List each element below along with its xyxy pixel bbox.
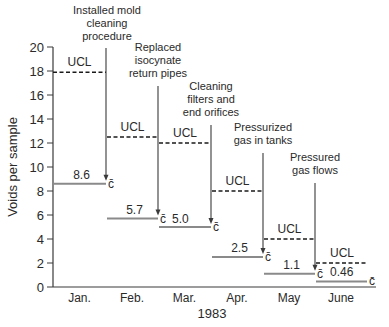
annotation-text: Pressured [290, 151, 340, 163]
annotation-text: Pressurized [234, 121, 292, 133]
x-tick-label: June [328, 291, 354, 305]
annotation: Installed moldcleaningprocedure [73, 4, 141, 181]
x-tick-label: Feb. [120, 291, 144, 305]
x-tick-label: Jan. [68, 291, 91, 305]
annotation-text: end orifices [183, 106, 240, 118]
ucl-label: UCL [277, 222, 301, 236]
x-axis-label: 1983 [198, 306, 227, 321]
cbar-value-label: 0.46 [330, 265, 354, 279]
y-axis-label: Voids per sample [5, 117, 20, 217]
annotation-text: cleaning [87, 17, 128, 29]
annotation-text: Cleaning [189, 80, 232, 92]
annotation-text: procedure [82, 30, 132, 42]
y-tick-label: 20 [30, 40, 44, 55]
y-tick-label: 16 [30, 88, 44, 103]
y-axis: 02468101214161820 [30, 40, 53, 295]
y-tick-label: 6 [37, 208, 44, 223]
cbar-label: c̄ [265, 250, 271, 264]
annotation-text: return pipes [129, 67, 188, 79]
ucl-label: UCL [120, 120, 144, 134]
control-chart: 02468101214161820 Jan.Feb.Mar.Apr.MayJun… [0, 0, 389, 327]
cbar-value-label: 5.7 [126, 203, 143, 217]
cbar-value-label: 5.0 [172, 212, 189, 226]
cbar-label: c̄ [317, 267, 323, 281]
annotation-text: gas in tanks [234, 134, 293, 146]
cbar-value-label: 8.6 [73, 168, 90, 182]
cbar-value-label: 2.5 [231, 241, 248, 255]
cbar-label: c̄ [160, 212, 166, 226]
ucl-label: UCL [225, 174, 249, 188]
annotation-text: gas flows [292, 164, 338, 176]
x-tick-label: May [278, 291, 301, 305]
x-axis: Jan.Feb.Mar.Apr.MayJune [53, 287, 376, 305]
cbar-value-label: 1.1 [283, 258, 300, 272]
y-tick-label: 18 [30, 64, 44, 79]
y-tick-label: 0 [37, 280, 44, 295]
annotation-text: isocynate [135, 54, 181, 66]
annotation-text: Replaced [135, 41, 181, 53]
y-tick-label: 8 [37, 184, 44, 199]
cbar-label: c̄ [108, 177, 114, 191]
y-tick-label: 4 [37, 232, 44, 247]
x-tick-label: Apr. [226, 291, 247, 305]
y-tick-label: 12 [30, 136, 44, 151]
ucl-label: UCL [330, 246, 354, 260]
y-tick-label: 14 [30, 112, 44, 127]
ucl-label: UCL [67, 55, 91, 69]
cbar-label: c̄ [369, 274, 375, 288]
y-tick-label: 2 [37, 256, 44, 271]
annotation-text: filters and [187, 93, 235, 105]
y-tick-label: 10 [30, 160, 44, 175]
x-tick-label: Mar. [173, 291, 196, 305]
annotation: Cleaningfilters andend orifices [183, 80, 240, 224]
annotation-text: Installed mold [73, 4, 141, 16]
ucl-label: UCL [173, 126, 197, 140]
cbar-label: c̄ [213, 220, 219, 234]
